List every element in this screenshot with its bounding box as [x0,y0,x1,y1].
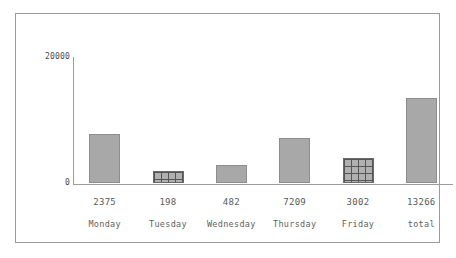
y-axis-tick-label-max: 20000 [34,52,70,61]
bar-thursday [279,138,310,183]
category-label-total: total [390,216,453,232]
value-label-monday: 2375 [73,194,136,210]
bar-friday [343,158,374,183]
figure-frame: 20000 0 23751984827209300213266 MondayTu… [15,13,440,243]
value-label-wednesday: 482 [200,194,263,210]
category-label-row: MondayTuesdayWednesdayThursdayFridaytota… [73,216,453,232]
y-axis-line [73,57,74,184]
y-axis-tick-label-zero: 0 [34,178,70,187]
category-label-thursday: Thursday [263,216,326,232]
bar-chart-figure: 20000 0 23751984827209300213266 MondayTu… [0,0,456,258]
bar-wednesday [216,165,247,183]
category-label-wednesday: Wednesday [200,216,263,232]
value-label-friday: 3002 [326,194,389,210]
bar-monday [89,134,120,183]
bar-total [406,98,437,183]
plot-area [73,57,453,184]
category-label-tuesday: Tuesday [136,216,199,232]
x-axis-line [73,184,453,185]
value-label-row: 23751984827209300213266 [73,194,453,210]
value-label-total: 13266 [390,194,453,210]
value-label-thursday: 7209 [263,194,326,210]
category-label-monday: Monday [73,216,136,232]
bar-tuesday [153,171,184,183]
value-label-tuesday: 198 [136,194,199,210]
category-label-friday: Friday [326,216,389,232]
